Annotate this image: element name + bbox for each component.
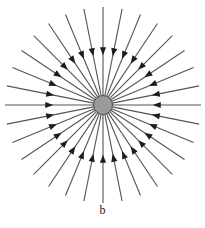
field-arrowhead [89,154,95,162]
field-arrowhead [78,151,84,160]
field-arrowhead [111,154,117,162]
field-arrowhead [45,102,53,108]
field-arrowhead [149,124,158,130]
figure-caption-label: b [0,203,205,217]
field-arrowhead [144,70,152,77]
negative-point-charge [94,96,113,115]
figure-container: b [0,0,205,228]
field-arrowhead [131,55,138,63]
field-arrowhead [89,48,95,56]
field-arrowhead [122,151,128,160]
field-arrowhead [111,48,117,56]
field-arrowhead [48,80,57,86]
field-arrowhead [68,146,75,154]
field-arrowhead [144,133,152,140]
field-arrowhead [46,91,54,97]
field-arrowhead [53,70,61,77]
field-arrowhead [68,55,75,63]
field-arrowhead [100,47,106,55]
field-arrowhead [131,146,138,154]
field-arrowhead [100,155,106,163]
field-arrowhead [78,50,84,59]
field-arrowhead [153,102,161,108]
field-arrowhead [48,124,57,130]
electric-field-diagram [0,0,205,205]
field-arrowhead [53,133,61,140]
field-arrowhead [122,50,128,59]
field-arrowhead [152,91,160,97]
field-arrowhead [152,113,160,119]
field-arrowhead [46,113,54,119]
field-arrowhead [149,80,158,86]
